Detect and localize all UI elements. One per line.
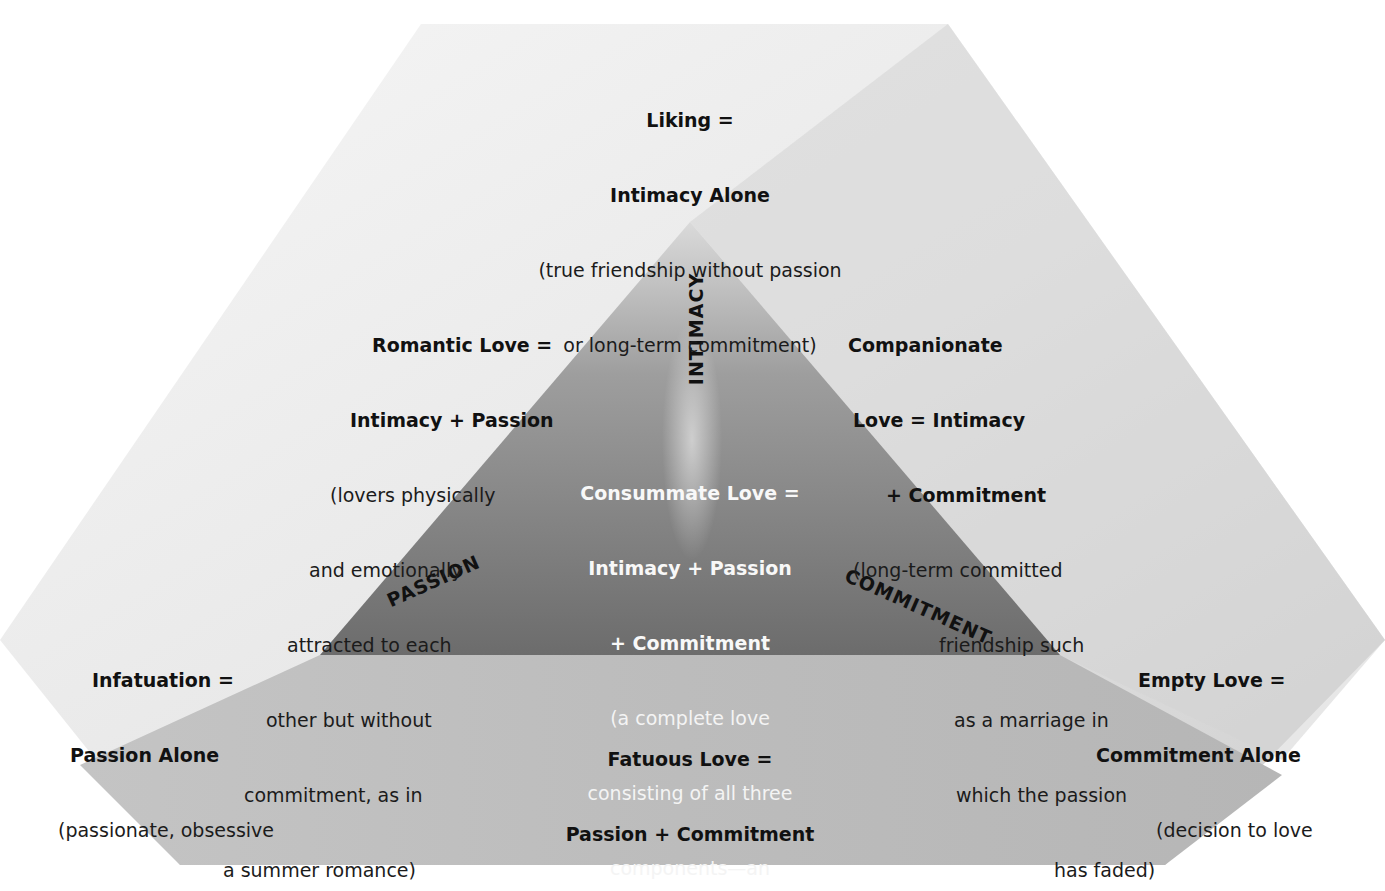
empty-love-label: Empty Love = Commitment Alone (decision … xyxy=(1068,618,1368,891)
fatuous-love-label: Fatuous Love = Passion + Commitment (com… xyxy=(440,697,940,891)
infatuation-label: Infatuation = Passion Alone (passionate,… xyxy=(58,618,358,891)
